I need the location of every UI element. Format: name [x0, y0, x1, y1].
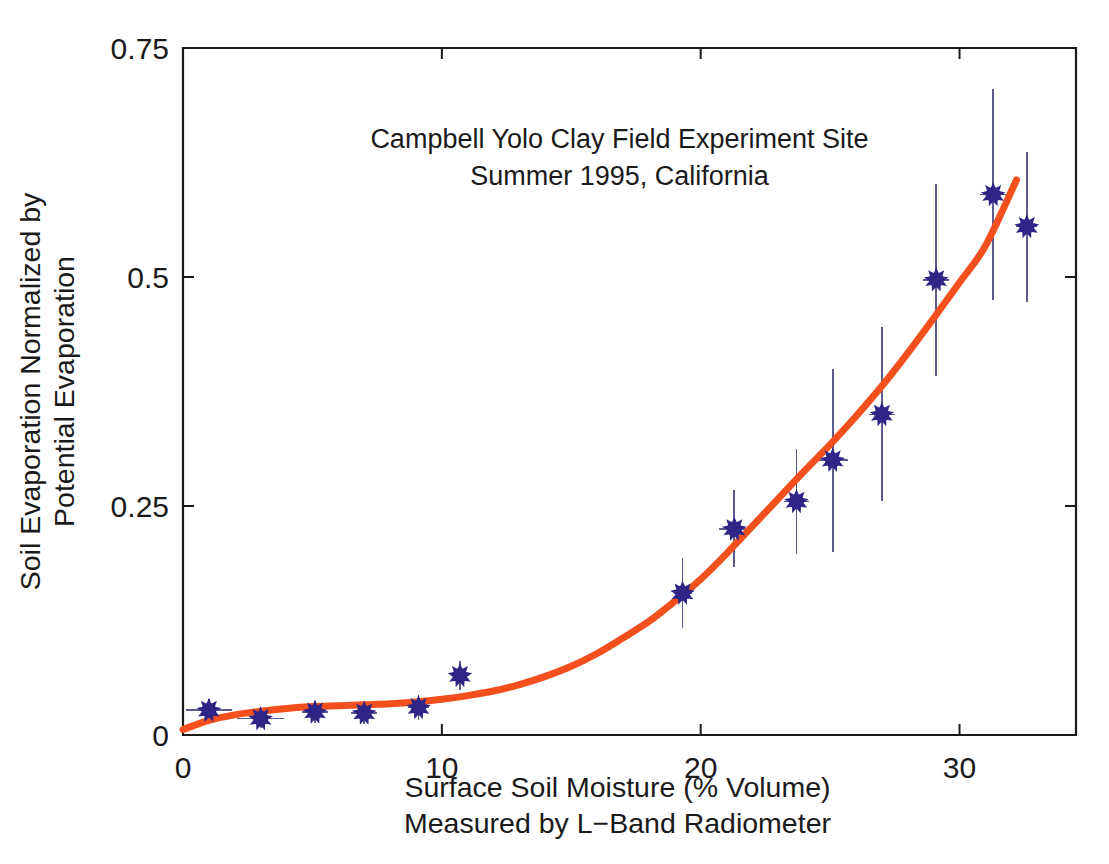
x-tick-label-30: 30	[943, 751, 976, 784]
y-tick-label-0p75: 0.75	[111, 32, 169, 65]
y-tick-label-0p5: 0.5	[127, 261, 169, 294]
chart-title-line2: Summer 1995, California	[470, 161, 770, 191]
scatter-plot-canvas: 010203000.250.50.75Campbell Yolo Clay Fi…	[0, 0, 1109, 864]
data-point-dot	[727, 522, 742, 537]
data-point-dot	[453, 668, 468, 683]
data-point-dot	[1019, 219, 1034, 234]
data-point-dot	[357, 706, 372, 721]
data-point-dot	[874, 407, 889, 422]
x-axis-title: Surface Soil Moisture (% Volume)	[404, 771, 830, 803]
data-point-dot	[675, 586, 690, 601]
data-point-dot	[253, 711, 268, 726]
x-tick-label-0: 0	[175, 751, 192, 784]
chart-title-line1: Campbell Yolo Clay Field Experiment Site	[370, 124, 868, 154]
data-point-dot	[929, 272, 944, 287]
figure-container: 010203000.250.50.75Campbell Yolo Clay Fi…	[0, 0, 1109, 864]
y-axis-title: Soil Evaporation Normalized by	[14, 192, 46, 590]
data-point-dot	[986, 187, 1001, 202]
data-point-dot	[411, 700, 426, 715]
data-point-dot	[789, 494, 804, 509]
data-point-dot	[825, 453, 840, 468]
y-tick-label-0: 0	[152, 719, 169, 752]
x-axis-subtitle: Measured by L−Band Radiometer	[404, 807, 831, 839]
y-tick-label-0p25: 0.25	[111, 490, 169, 523]
data-point-dot	[308, 705, 323, 720]
y-axis-subtitle: Potential Evaporation	[48, 256, 80, 527]
data-point-dot	[201, 703, 216, 718]
